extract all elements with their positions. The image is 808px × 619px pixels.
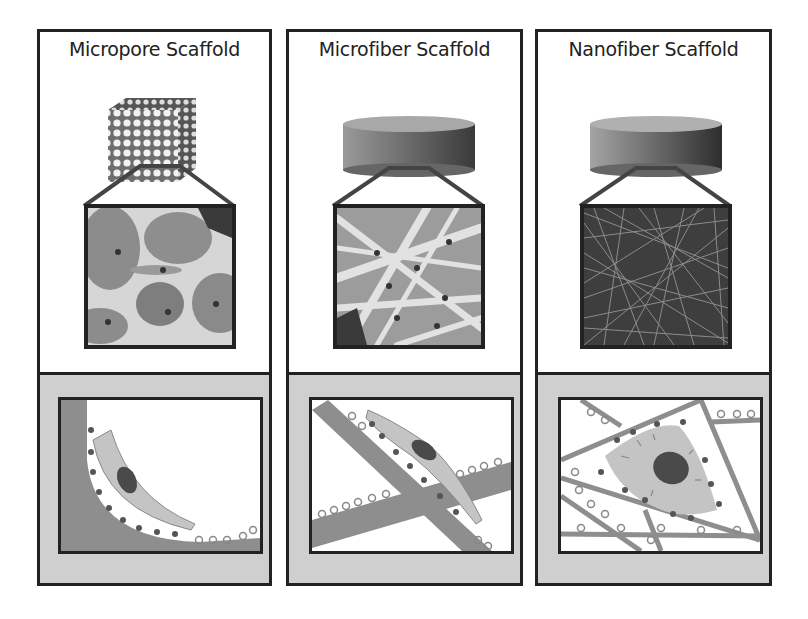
panel-microfiber: Microfiber Scaffold xyxy=(286,29,523,586)
panel-top-microfiber: Microfiber Scaffold xyxy=(289,32,520,372)
panel-top-micropore: Micropore Scaffold xyxy=(40,32,269,372)
panel-bottom-micropore xyxy=(40,375,269,583)
panel-title: Microfiber Scaffold xyxy=(289,38,520,60)
schematic-microfiber xyxy=(309,397,514,554)
panel-micropore: Micropore Scaffold xyxy=(37,29,272,586)
panel-title: Micropore Scaffold xyxy=(40,38,269,60)
zoom-connector-icon xyxy=(329,162,489,208)
schematic-micropore xyxy=(58,397,263,554)
zoom-connector-icon xyxy=(80,158,240,208)
schematic-nanofiber xyxy=(558,397,763,554)
panel-title: Nanofiber Scaffold xyxy=(538,38,769,60)
panel-nanofiber: Nanofiber Scaffold xyxy=(535,29,772,586)
panel-bottom-microfiber xyxy=(289,375,520,583)
panel-bottom-nanofiber xyxy=(538,375,769,583)
micro-view-micropore xyxy=(84,204,236,349)
micro-view-nanofiber xyxy=(580,204,732,349)
zoom-connector-icon xyxy=(576,162,736,208)
panel-top-nanofiber: Nanofiber Scaffold xyxy=(538,32,769,372)
micro-view-microfiber xyxy=(333,204,485,349)
